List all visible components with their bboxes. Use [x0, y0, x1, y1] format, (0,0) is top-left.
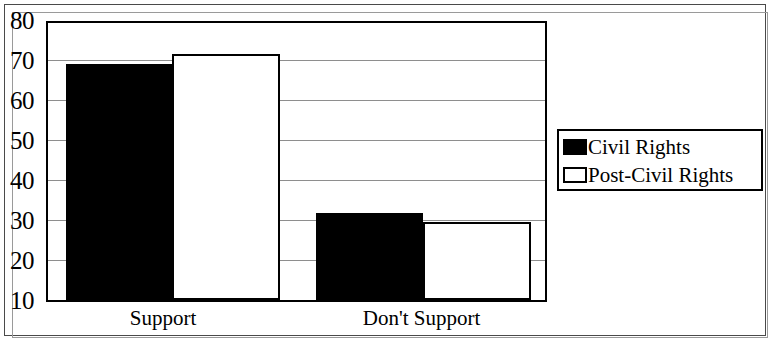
y-tick-50-label: 50 — [2, 128, 34, 153]
plot-area — [46, 21, 547, 302]
x-tick-dont-support: Don't Support — [296, 306, 547, 330]
y-tick-10-label: 10 — [2, 288, 34, 313]
y-tick-40-label: 40 — [2, 168, 34, 193]
y-axis: 80 70 60 50 40 30 20 10 — [0, 0, 46, 345]
y-tick-10: 10 — [2, 288, 46, 313]
legend-label-post-civil-rights: Post-Civil Rights — [587, 164, 733, 186]
legend-label-civil-rights: Civil Rights — [587, 136, 690, 158]
gridline-70 — [48, 60, 545, 61]
bar-dont-support-post-civil-rights — [423, 222, 531, 300]
y-tick-20: 20 — [2, 248, 46, 273]
bar-dont-support-civil-rights — [316, 213, 423, 300]
y-tick-60-label: 60 — [2, 88, 34, 113]
y-tick-70: 70 — [2, 48, 46, 73]
bar-chart-figure: 80 70 60 50 40 30 20 10 Support Don't Su… — [0, 0, 773, 345]
legend: Civil Rights Post-Civil Rights — [557, 129, 763, 191]
y-tick-50: 50 — [2, 128, 46, 153]
y-tick-20-label: 20 — [2, 248, 34, 273]
y-tick-80: 80 — [2, 8, 46, 33]
bar-support-post-civil-rights — [172, 54, 280, 300]
y-tick-80-label: 80 — [2, 8, 34, 33]
legend-swatch-white-outlined-square-icon — [563, 167, 587, 183]
y-tick-30-label: 30 — [2, 208, 34, 233]
x-tick-support: Support — [46, 306, 280, 330]
bar-support-civil-rights — [66, 64, 172, 300]
y-tick-70-label: 70 — [2, 48, 34, 73]
legend-item-civil-rights: Civil Rights — [563, 133, 757, 161]
legend-swatch-black-filled-square-icon — [563, 139, 587, 155]
legend-item-post-civil-rights: Post-Civil Rights — [563, 161, 757, 189]
y-tick-30: 30 — [2, 208, 46, 233]
y-tick-40: 40 — [2, 168, 46, 193]
y-tick-60: 60 — [2, 88, 46, 113]
